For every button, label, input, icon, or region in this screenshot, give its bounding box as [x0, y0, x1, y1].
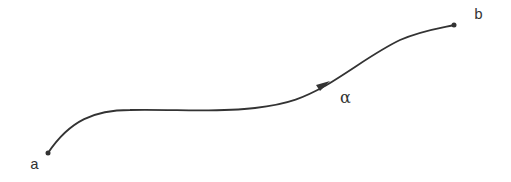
label-alpha: α	[340, 90, 351, 106]
end-point	[452, 23, 457, 28]
curve-diagram	[0, 0, 511, 182]
curve-alpha	[48, 25, 454, 153]
start-point	[46, 151, 51, 156]
label-a: a	[30, 158, 39, 173]
label-b: b	[474, 8, 483, 23]
